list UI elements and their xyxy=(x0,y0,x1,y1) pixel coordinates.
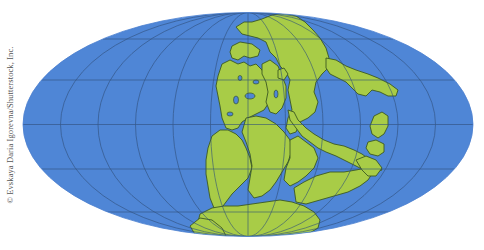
pangaea-map-svg xyxy=(0,0,484,250)
image-credit: © Evskaya Daria Igorevna/Shutterstock, I… xyxy=(5,46,15,203)
paleogeographic-map xyxy=(0,0,484,250)
